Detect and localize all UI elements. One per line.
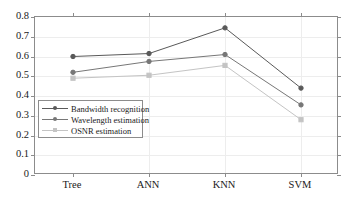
series-marker: [299, 86, 303, 90]
plot-area: [34, 16, 338, 174]
series-layer: [35, 17, 339, 175]
legend-marker-icon: [53, 117, 57, 121]
legend-item-wavelength-estimation: Wavelength estimation: [42, 114, 139, 125]
legend-label: OSNR estimation: [71, 126, 131, 136]
legend-swatch-icon: [42, 114, 68, 125]
x-axis-tick-label: SVM: [289, 179, 312, 190]
legend-item-bandwidth-recognition: Bandwidth recognition: [42, 103, 139, 114]
y-axis-tick-label: 0.5: [1, 69, 29, 80]
legend-label: Wavelength estimation: [71, 115, 149, 125]
y-axis-tick-label: 0: [1, 168, 29, 179]
series-marker: [71, 76, 75, 80]
legend-item-osnr-estimation: OSNR estimation: [42, 125, 139, 136]
legend-marker-icon: [53, 106, 57, 110]
series-marker: [147, 51, 151, 55]
y-axis-tick-label: 0.2: [1, 129, 29, 140]
series-marker: [223, 63, 227, 67]
x-axis-tick-label: Tree: [63, 179, 82, 190]
series-marker: [299, 118, 303, 122]
legend-marker-icon: [53, 128, 57, 132]
y-axis-tick-label: 0.8: [1, 10, 29, 21]
series-marker: [71, 70, 75, 74]
legend-swatch-icon: [42, 125, 68, 136]
y-axis-tick-label: 0.4: [1, 89, 29, 100]
y-axis-tick-label: 0.3: [1, 109, 29, 120]
legend-swatch-icon: [42, 103, 68, 114]
series-marker: [223, 26, 227, 30]
series-marker: [71, 54, 75, 58]
y-axis-tick-label: 0.7: [1, 30, 29, 41]
y-axis-tick-right: [337, 175, 341, 176]
chart-figure: 00.10.20.30.40.50.60.70.8 TreeANNKNNSVM …: [0, 0, 359, 206]
series-marker: [299, 103, 303, 107]
legend: Bandwidth recognition Wavelength estimat…: [38, 100, 143, 138]
series-line: [73, 55, 301, 105]
y-axis-tick-label: 0.6: [1, 50, 29, 61]
y-axis-tick-label: 0.1: [1, 148, 29, 159]
x-axis-tick-label: ANN: [137, 179, 160, 190]
series-marker: [223, 52, 227, 56]
series-marker: [147, 73, 151, 77]
series-marker: [147, 59, 151, 63]
y-axis-tick: [31, 175, 35, 176]
x-axis-tick-label: KNN: [213, 179, 236, 190]
legend-label: Bandwidth recognition: [71, 104, 149, 114]
